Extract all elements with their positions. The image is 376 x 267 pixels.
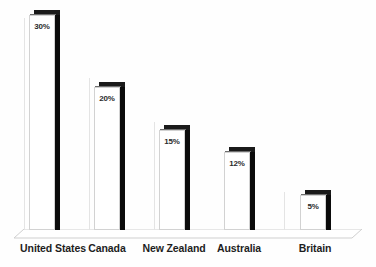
bar-top-edge bbox=[301, 194, 327, 195]
guide-line bbox=[24, 18, 25, 230]
bar-front-face bbox=[29, 15, 55, 230]
guide-line bbox=[89, 78, 90, 230]
category-label-australia: Australia bbox=[203, 242, 275, 254]
bar-value-label: 20% bbox=[94, 94, 120, 103]
category-label-britain: Britain bbox=[285, 242, 345, 254]
bar-top-edge bbox=[160, 129, 186, 130]
bar-canada[interactable] bbox=[94, 87, 120, 230]
bar-front-face bbox=[300, 195, 326, 230]
plot-area: 30% 20% 15% 12% bbox=[0, 0, 376, 267]
guide-line bbox=[284, 192, 285, 230]
bar-value-label: 12% bbox=[224, 159, 250, 168]
bar-front-face bbox=[94, 87, 120, 230]
bar-value-label: 30% bbox=[29, 22, 55, 31]
bar-britain[interactable] bbox=[300, 195, 326, 230]
bar-top-edge bbox=[225, 151, 251, 152]
floor-shape bbox=[14, 229, 362, 242]
bar-chart: 30% 20% 15% 12% bbox=[0, 0, 376, 267]
bar-value-label: 5% bbox=[300, 202, 326, 211]
bar-top-edge bbox=[30, 14, 56, 15]
bar-top-edge bbox=[95, 86, 121, 87]
bar-value-label: 15% bbox=[159, 137, 185, 146]
guide-line bbox=[154, 122, 155, 230]
bar-united-states[interactable] bbox=[29, 15, 55, 230]
